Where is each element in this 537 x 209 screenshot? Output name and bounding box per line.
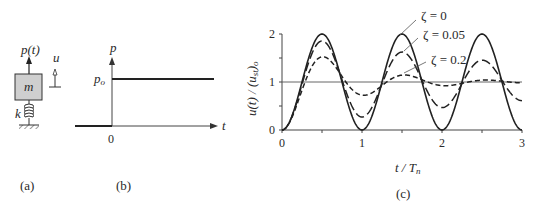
time-axis-label: t — [222, 118, 226, 133]
x-tick-label: 2 — [439, 136, 445, 150]
caption-b: (b) — [116, 178, 131, 193]
legend-zeta-0: ζ = 0 — [421, 8, 447, 23]
chart-y-label: u(t) / (ust)o — [244, 61, 260, 116]
force-axis-label: p — [109, 40, 117, 55]
force-label: p(t) — [20, 42, 40, 57]
chart-x-label: t / Tn — [395, 160, 421, 176]
caption-a: (a) — [20, 178, 34, 193]
caption-c: (c) — [396, 186, 410, 201]
spring-label: k — [15, 106, 21, 121]
panel-c-response-chart: 0123012 u(t) / (ust)o t / Tn (c) ζ = 0 ζ… — [244, 8, 525, 201]
x-tick-label: 3 — [519, 136, 525, 150]
legend-zeta-005: ζ = 0.05 — [423, 27, 465, 42]
x-tick-label: 1 — [359, 136, 365, 150]
force-arrow-icon — [26, 56, 32, 74]
chart-axes: 0123012 — [269, 27, 525, 150]
displacement-label: u — [53, 50, 60, 65]
ground-hatch-icon — [19, 125, 39, 129]
y-tick-label: 1 — [269, 75, 275, 89]
y-tick-label: 2 — [269, 27, 275, 41]
mass-label: m — [24, 79, 33, 94]
origin-label: 0 — [108, 132, 114, 146]
step-level-label: po — [93, 71, 106, 87]
legend-zeta-02: ζ = 0.2 — [431, 52, 466, 67]
displacement-arrow-icon — [49, 69, 61, 87]
time-axis-arrow-icon — [210, 123, 218, 129]
figure: p(t) m k u (a) t p — [0, 0, 537, 209]
curve-02 — [282, 57, 522, 130]
panel-b-step-force: t p po 0 (b) — [75, 40, 226, 193]
force-axis-arrow-icon — [109, 57, 115, 65]
x-tick-label: 0 — [279, 136, 285, 150]
panel-a-sdof-system: p(t) m k u (a) — [15, 42, 61, 193]
curve-005 — [282, 41, 522, 130]
y-tick-label: 0 — [269, 123, 275, 137]
spring-icon — [25, 100, 34, 125]
legend: ζ = 0 ζ = 0.05 ζ = 0.2 — [400, 8, 466, 73]
